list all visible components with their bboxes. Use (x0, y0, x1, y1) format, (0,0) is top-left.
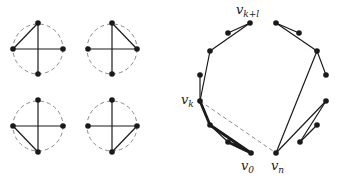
vertex (297, 139, 303, 145)
label-v0: v0 (241, 158, 254, 175)
vertex-v0 (248, 150, 254, 156)
vertex (323, 72, 329, 78)
edge (228, 23, 250, 33)
vertex (197, 72, 203, 78)
edge (300, 101, 326, 142)
small-circle-graph-4 (85, 97, 140, 155)
vertex (10, 123, 16, 129)
vertex (35, 71, 41, 77)
vertex (296, 30, 302, 36)
edge (276, 23, 317, 51)
vertex (85, 123, 91, 129)
vertex (273, 20, 279, 26)
extra-edge (112, 126, 137, 152)
vertex (207, 48, 213, 54)
small-circle-graph-3 (10, 97, 66, 155)
label-vkl: vk+l (236, 2, 259, 19)
vertex (109, 71, 115, 77)
vertex (35, 97, 41, 103)
vertex-vn (273, 150, 279, 156)
vertex-vk (197, 98, 203, 104)
thick-path (200, 101, 251, 153)
vertex (60, 123, 66, 129)
vertex (35, 149, 41, 155)
vertex (134, 123, 140, 129)
edge (210, 23, 250, 51)
edge (317, 51, 326, 75)
large-graph: vk+l vk v0 vn (181, 2, 329, 175)
vertex (225, 30, 231, 36)
diagram-canvas: vk+l vk v0 vn (0, 0, 342, 178)
vertex (35, 20, 41, 26)
vertex (323, 98, 329, 104)
vertex (109, 149, 115, 155)
vertex-vkl (247, 20, 253, 26)
vertex (207, 122, 213, 128)
label-vn: vn (271, 158, 284, 175)
edge (276, 51, 317, 153)
small-circle-graph-1 (10, 20, 66, 77)
vertex (314, 122, 320, 128)
vertex (109, 97, 115, 103)
vertex (225, 139, 231, 145)
vertex (109, 20, 115, 26)
vertex (10, 46, 16, 52)
small-circle-graph-2 (85, 20, 140, 77)
vertex (134, 46, 140, 52)
vertex (314, 48, 320, 54)
vertex (60, 46, 66, 52)
vertex (85, 46, 91, 52)
label-vk: vk (181, 92, 194, 109)
